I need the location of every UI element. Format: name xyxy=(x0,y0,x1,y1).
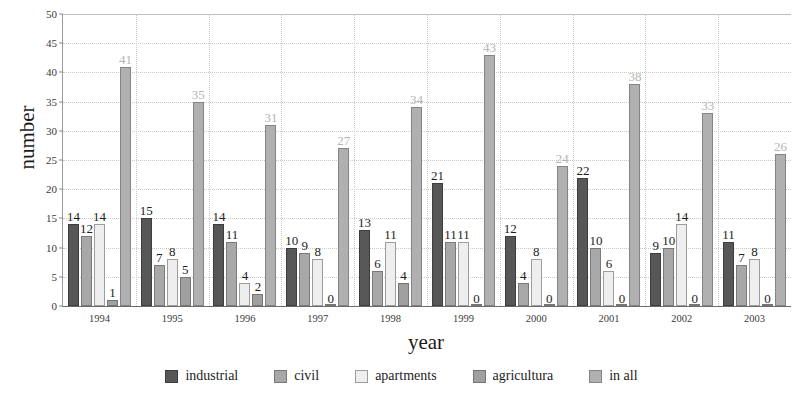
bar-value-label: 35 xyxy=(192,88,205,101)
bar-in-all[interactable] xyxy=(484,55,495,306)
bar-column: 13 xyxy=(359,14,370,306)
legend-item-apartments[interactable]: apartments xyxy=(355,368,436,384)
bar-in-all[interactable] xyxy=(775,154,786,306)
bar-industrial[interactable] xyxy=(68,224,79,306)
bar-apartments[interactable] xyxy=(385,242,396,306)
bar-industrial[interactable] xyxy=(723,242,734,306)
bar-apartments[interactable] xyxy=(167,259,178,306)
bar-group: 11780262003 xyxy=(718,14,791,306)
bar-value-label: 11 xyxy=(444,228,457,241)
bar-industrial[interactable] xyxy=(213,224,224,306)
bar-value-label: 8 xyxy=(315,245,322,258)
bar-value-label: 9 xyxy=(302,239,309,252)
bar-industrial[interactable] xyxy=(286,248,297,306)
bar-civil[interactable] xyxy=(154,265,165,306)
bar-value-label: 4 xyxy=(520,269,527,282)
bar-group: 1412141411994 xyxy=(63,14,136,306)
bar-civil[interactable] xyxy=(445,242,456,306)
bar-value-label: 12 xyxy=(504,222,517,235)
bar-in-all[interactable] xyxy=(557,166,568,306)
y-axis-tick-label: 50 xyxy=(46,8,57,20)
y-axis-tick-label: 5 xyxy=(52,271,58,283)
y-axis-tick-label: 40 xyxy=(46,66,57,78)
bar-apartments[interactable] xyxy=(94,224,105,306)
bar-in-all[interactable] xyxy=(629,84,640,306)
bar-agricultura[interactable] xyxy=(107,300,118,306)
legend-item-civil[interactable]: civil xyxy=(274,368,319,384)
bar-in-all[interactable] xyxy=(120,67,131,306)
bar-civil[interactable] xyxy=(81,236,92,306)
bar-in-all[interactable] xyxy=(265,125,276,306)
bar-industrial[interactable] xyxy=(577,178,588,306)
bar-column: 7 xyxy=(736,14,747,306)
bar-in-all[interactable] xyxy=(411,107,422,306)
bar-industrial[interactable] xyxy=(141,218,152,306)
y-axis-tick-label: 20 xyxy=(46,183,57,195)
bar-column: 43 xyxy=(484,14,495,306)
bar-civil[interactable] xyxy=(299,253,310,306)
x-axis-tick-label: 2003 xyxy=(744,313,765,324)
bar-column: 0 xyxy=(689,14,700,306)
bar-civil[interactable] xyxy=(372,271,383,306)
bar-apartments[interactable] xyxy=(749,259,760,306)
bar-column: 7 xyxy=(154,14,165,306)
bar-civil[interactable] xyxy=(736,265,747,306)
bar-group-bars: 1578535 xyxy=(136,14,209,306)
bar-value-label: 38 xyxy=(628,70,641,83)
bar-column: 35 xyxy=(193,14,204,306)
legend-label: agricultura xyxy=(493,368,554,384)
legend-swatch-icon xyxy=(589,370,602,383)
bar-group-bars: 14114231 xyxy=(209,14,282,306)
legend-item-in-all[interactable]: in all xyxy=(589,368,637,384)
bar-group-bars: 1098027 xyxy=(281,14,354,306)
bar-industrial[interactable] xyxy=(505,236,516,306)
legend-item-industrial[interactable]: industrial xyxy=(165,368,238,384)
bar-apartments[interactable] xyxy=(603,271,614,306)
bar-column: 22 xyxy=(577,14,588,306)
bar-in-all[interactable] xyxy=(338,148,349,306)
bar-apartments[interactable] xyxy=(312,259,323,306)
bar-column: 14 xyxy=(68,14,79,306)
bar-column: 15 xyxy=(141,14,152,306)
x-axis-tick-label: 2000 xyxy=(526,313,547,324)
y-axis-tick-label: 45 xyxy=(46,37,57,49)
bar-in-all[interactable] xyxy=(702,113,713,306)
bar-industrial[interactable] xyxy=(359,230,370,306)
bar-agricultura[interactable] xyxy=(180,277,191,306)
bar-apartments[interactable] xyxy=(458,242,469,306)
bar-agricultura[interactable] xyxy=(398,283,409,306)
bar-column: 0 xyxy=(471,14,482,306)
bar-value-label: 10 xyxy=(285,234,298,247)
bar-column: 24 xyxy=(557,14,568,306)
bar-column: 26 xyxy=(775,14,786,306)
bar-column: 11 xyxy=(458,14,469,306)
bar-industrial[interactable] xyxy=(650,253,661,306)
y-axis-tick-label: 0 xyxy=(52,300,58,312)
bar-in-all[interactable] xyxy=(193,102,204,306)
bar-value-label: 6 xyxy=(606,257,613,270)
bar-group: 15785351995 xyxy=(136,14,209,306)
bar-apartments[interactable] xyxy=(531,259,542,306)
bar-apartments[interactable] xyxy=(676,224,687,306)
bar-column: 12 xyxy=(505,14,516,306)
bar-value-label: 9 xyxy=(653,239,660,252)
bar-agricultura[interactable] xyxy=(252,294,263,306)
legend-item-agricultura[interactable]: agricultura xyxy=(473,368,554,384)
bar-civil[interactable] xyxy=(663,248,674,306)
bar-industrial[interactable] xyxy=(432,183,443,306)
bar-column: 14 xyxy=(213,14,224,306)
bar-civil[interactable] xyxy=(226,242,237,306)
bar-apartments[interactable] xyxy=(239,283,250,306)
bar-column: 6 xyxy=(372,14,383,306)
bar-group: 141142311996 xyxy=(209,14,282,306)
legend-swatch-icon xyxy=(274,370,287,383)
bar-civil[interactable] xyxy=(518,283,529,306)
bar-group-bars: 13611434 xyxy=(354,14,427,306)
bar-civil[interactable] xyxy=(590,248,601,306)
bar-group: 12480242000 xyxy=(500,14,573,306)
bar-column: 11 xyxy=(385,14,396,306)
bar-value-label: 14 xyxy=(67,210,80,223)
legend-swatch-icon xyxy=(165,370,178,383)
bar-column: 34 xyxy=(411,14,422,306)
bar-column: 11 xyxy=(226,14,237,306)
